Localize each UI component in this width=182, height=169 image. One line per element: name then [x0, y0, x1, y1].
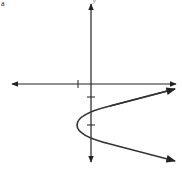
parabola-upper-arrow	[110, 89, 175, 106]
graph	[0, 0, 182, 169]
